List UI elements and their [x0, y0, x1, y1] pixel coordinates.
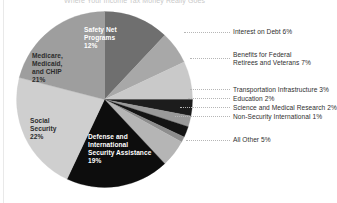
- left-margin-rule: [3, 0, 4, 203]
- chart-title-text: Where Your Income Tax Money Really Goes: [64, 0, 264, 5]
- slice-label-safety-net-programs: Safety Net Programs 12%: [84, 26, 138, 50]
- chart-title-cropped: Where Your Income Tax Money Really Goes: [64, 0, 264, 5]
- slice-label-social-security: Social Security 22%: [30, 117, 80, 141]
- leader-line-all-other: [186, 140, 230, 141]
- callout-transportation-infrastructure: Transportation Infrastructure 3%: [233, 86, 337, 94]
- leader-line-science: [180, 107, 230, 108]
- callout-education: Education 2%: [233, 95, 337, 103]
- callout-non-security-international: Non-Security International 1%: [233, 113, 337, 121]
- leader-line-transportation: [190, 89, 230, 90]
- leader-line-benefits-federal: [190, 58, 230, 59]
- leader-line-non-security-international: [175, 116, 230, 117]
- leader-line-education: [188, 98, 230, 99]
- callout-interest-on-debt: Interest on Debt 6%: [233, 28, 337, 36]
- slice-label-medicare-medicaid-chip: Medicare, Medicaid, and CHIP 21%: [32, 52, 90, 84]
- chart-page: Where Your Income Tax Money Really Goes …: [0, 0, 337, 203]
- leader-line-interest-on-debt: [184, 32, 230, 33]
- callout-science-and-medical-research: Science and Medical Research 2%: [233, 104, 337, 112]
- callout-benefits-for-federal-retirees: Benefits for Federal Retirees and Vetera…: [233, 51, 337, 68]
- slice-label-defense-international-security: Defense and International Security Assis…: [88, 133, 164, 165]
- callout-all-other: All Other 5%: [233, 136, 337, 144]
